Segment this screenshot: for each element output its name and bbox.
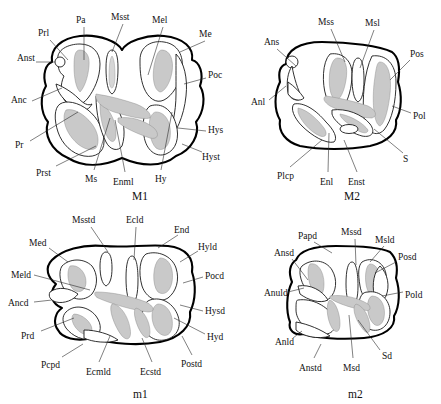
label-M1-Hy: Hy bbox=[155, 175, 167, 185]
label-m1-Prd: Prd bbox=[21, 332, 34, 342]
label-m1-Ecmld: Ecmld bbox=[86, 368, 111, 378]
label-M1-Me: Me bbox=[199, 30, 212, 40]
molar-morphology-figure: PrlPaMsstMelMeAnstPocAncHysPrHystPrstMsE… bbox=[0, 0, 441, 404]
label-m2-Pold: Pold bbox=[405, 291, 422, 301]
M1-Anst-cusplet bbox=[55, 57, 65, 67]
label-M2-Enl: Enl bbox=[320, 178, 333, 188]
panel-m2-drawing bbox=[287, 239, 403, 358]
label-M1-Msst: Msst bbox=[111, 13, 129, 23]
M1-Msst-dentine bbox=[109, 56, 115, 88]
label-M2-Anl: Anl bbox=[251, 98, 265, 108]
panel-title-m1: m1 bbox=[133, 388, 148, 400]
label-m2-Ansd: Ansd bbox=[274, 249, 294, 259]
label-m2-Anstd: Anstd bbox=[299, 364, 322, 374]
label-m1-Pocd: Pocd bbox=[205, 272, 224, 282]
panel-title-m2: m2 bbox=[348, 388, 363, 400]
label-M1-Prst: Prst bbox=[36, 169, 51, 179]
label-m1-Pcpd: Pcpd bbox=[41, 361, 60, 371]
label-M1-Poc: Poc bbox=[208, 71, 222, 81]
label-m1-Hyd: Hyd bbox=[207, 333, 223, 343]
label-M2-S: S bbox=[403, 155, 408, 165]
label-M1-Hyst: Hyst bbox=[202, 153, 220, 163]
label-M2-Msl: Msl bbox=[365, 19, 380, 29]
label-M2-Mss: Mss bbox=[318, 18, 334, 28]
label-M2-Enst: Enst bbox=[348, 178, 365, 188]
label-m1-Ecstd: Ecstd bbox=[140, 368, 161, 378]
label-m1-End: End bbox=[174, 226, 189, 236]
panel-M2-drawing bbox=[269, 29, 411, 172]
label-M2-Pol: Pol bbox=[413, 112, 426, 122]
label-M1-Anc: Anc bbox=[11, 96, 27, 106]
label-M1-Anst: Anst bbox=[17, 54, 35, 64]
label-m1-Ecld: Ecld bbox=[126, 216, 143, 226]
m1-Msstd-slit bbox=[100, 252, 112, 286]
label-M1-Prl: Prl bbox=[38, 29, 49, 39]
label-m2-Papd: Papd bbox=[298, 232, 317, 242]
label-m2-Anuld: Anuld bbox=[264, 289, 288, 299]
M2-S-islet bbox=[340, 125, 358, 134]
label-m1-Hyld: Hyld bbox=[198, 243, 217, 253]
panel-title-M1: M1 bbox=[132, 190, 148, 202]
label-m1-Hysd: Hysd bbox=[205, 307, 225, 317]
label-m1-Ancd: Ancd bbox=[8, 299, 29, 309]
label-M2-Pos: Pos bbox=[410, 50, 424, 60]
label-M1-Enml: Enml bbox=[113, 178, 134, 188]
label-M1-Ms: Ms bbox=[85, 175, 97, 185]
figure-canvas bbox=[0, 0, 441, 404]
label-M1-Pr: Pr bbox=[15, 141, 23, 151]
label-m2-Anld: Anld bbox=[275, 338, 294, 348]
panel-M1-drawing bbox=[30, 24, 206, 172]
label-m1-Meld: Meld bbox=[11, 271, 31, 281]
panel-title-M2: M2 bbox=[344, 190, 360, 202]
label-m2-Msd: Msd bbox=[343, 364, 360, 374]
M2-Msl-slit bbox=[352, 58, 364, 102]
label-M1-Hys: Hys bbox=[208, 126, 223, 136]
label-m2-Sd: Sd bbox=[382, 352, 392, 362]
label-M1-Mel: Mel bbox=[152, 16, 167, 26]
label-m2-Msld: Msld bbox=[375, 236, 395, 246]
label-m2-Posd: Posd bbox=[398, 253, 416, 263]
label-m1-Msstd: Msstd bbox=[72, 216, 95, 226]
label-m1-Postd: Postd bbox=[181, 360, 202, 370]
label-M2-Ans: Ans bbox=[264, 38, 279, 48]
label-M2-Plcp: Plcp bbox=[277, 172, 294, 182]
label-m1-Med: Med bbox=[29, 239, 46, 249]
label-m2-Mssd: Mssd bbox=[341, 228, 362, 238]
label-M1-Pa: Pa bbox=[76, 16, 86, 26]
panel-m1-drawing bbox=[34, 227, 205, 362]
